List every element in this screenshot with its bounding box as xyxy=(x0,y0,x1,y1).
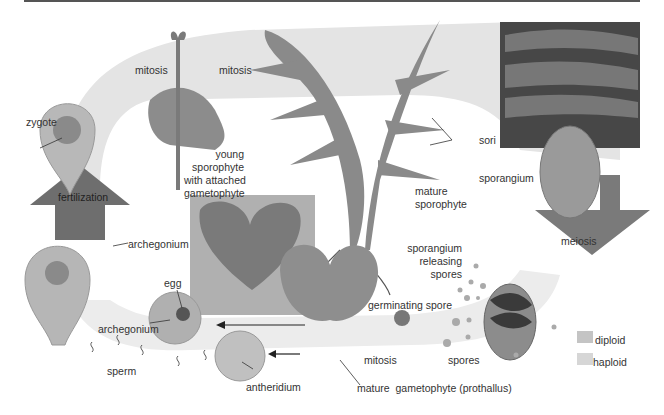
germinating-spore xyxy=(394,310,410,326)
legend-haploid-label: haploid xyxy=(593,356,627,369)
label-meiosis: meiosis xyxy=(561,235,597,248)
label-zygote: zygote xyxy=(26,116,57,129)
legend-swatch-haploid xyxy=(577,353,593,365)
label-mitosis-2: mitosis xyxy=(219,64,252,77)
label-mature-gametophyte: mature gametophyte (prothallus) xyxy=(357,382,512,395)
label-sporangium: sporangium xyxy=(479,172,534,185)
label-sperm: sperm xyxy=(107,365,136,378)
fern-life-cycle-diagram: zygote mitosis mitosis young sporophyte … xyxy=(0,0,664,415)
label-fertilization: fertilization xyxy=(58,191,108,204)
label-mitosis-1: mitosis xyxy=(135,64,168,77)
sporangium xyxy=(540,126,600,218)
label-mitosis-3: mitosis xyxy=(364,354,397,367)
antheridium xyxy=(215,331,265,381)
label-archegonium-1: archegonium xyxy=(128,238,189,251)
label-spores: spores xyxy=(448,354,480,367)
label-antheridium: antheridium xyxy=(246,381,301,394)
label-young-sporophyte: young sporophyte with attached gametophy… xyxy=(184,148,244,200)
legend-diploid-label: diploid xyxy=(595,334,625,347)
label-sporangium-releasing: sporangium releasing spores xyxy=(400,242,462,281)
legend-swatch-diploid xyxy=(577,331,593,343)
archegonium-small xyxy=(149,292,201,344)
label-sori: sori xyxy=(479,134,496,147)
label-egg: egg xyxy=(164,277,182,290)
label-germinating-spore: germinating spore xyxy=(368,299,452,312)
label-archegonium-2: archegonium xyxy=(98,323,159,336)
label-mature-sporophyte: mature sporophyte xyxy=(415,185,467,211)
diagram-artwork xyxy=(0,0,664,415)
